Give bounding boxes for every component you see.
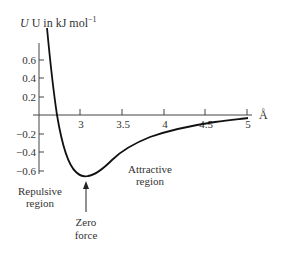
svg-text:force: force: [75, 229, 98, 241]
potential-curve: [47, 28, 248, 176]
y-tick-label: 0.6: [22, 54, 36, 66]
x-ticks: [80, 109, 247, 115]
svg-text:Attractive: Attractive: [128, 163, 172, 175]
y-axis-label-text: U in kJ mol: [32, 16, 89, 30]
svg-text:Repulsive: Repulsive: [18, 185, 62, 197]
x-unit-label: Å: [259, 108, 268, 122]
zero-force-annotation: Zero force: [75, 216, 98, 241]
attractive-annotation: Attractive region: [128, 163, 172, 187]
y-tick-label: −0.2: [16, 128, 36, 140]
x-tick-label: 5: [245, 118, 251, 130]
y-tick-label: −0.4: [16, 146, 36, 158]
y-axis-label-sup: −1: [88, 15, 97, 24]
svg-text:Zero: Zero: [76, 216, 97, 228]
y-tick-label: 0.4: [22, 72, 36, 84]
x-tick-label: 3: [78, 118, 84, 130]
y-tick-label: 0.2: [22, 91, 36, 103]
x-tick-label: 4: [162, 118, 168, 130]
svg-text:region: region: [26, 197, 55, 209]
y-tick-label: −0.6: [16, 165, 36, 177]
arrowhead-icon: [83, 181, 89, 189]
zero-force-arrow: [83, 181, 89, 212]
svg-text:region: region: [136, 175, 165, 187]
potential-energy-chart: U U in kJ mol−1 0.6 0.4 0.2 −0.2 −0.4 −0…: [0, 0, 283, 254]
repulsive-annotation: Repulsive region: [18, 185, 62, 209]
x-tick-label: 3.5: [116, 118, 130, 130]
y-axis-label: U U in kJ mol−1: [20, 15, 97, 30]
